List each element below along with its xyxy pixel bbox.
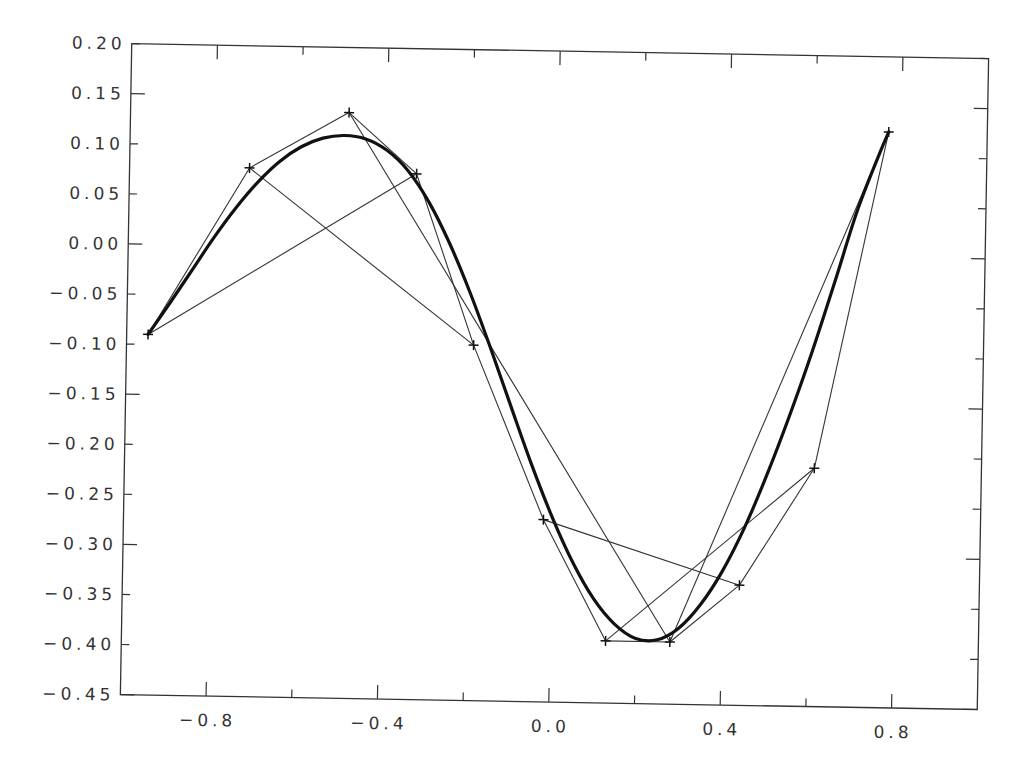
y-tick-label: −0.35	[44, 583, 116, 604]
plus-marker-icon	[469, 340, 479, 350]
y-tick-label: −0.30	[45, 533, 117, 554]
chart-canvas: 0.200.150.100.050.00−0.05−0.10−0.15−0.20…	[0, 0, 1036, 776]
control-line	[148, 169, 417, 339]
y-tick-label: −0.05	[49, 283, 121, 304]
control-line	[250, 111, 350, 170]
x-tick-label: −0.8	[179, 710, 237, 731]
plus-marker-icon	[884, 127, 894, 137]
control-line	[670, 128, 889, 645]
control-line	[348, 113, 418, 174]
control-line	[247, 168, 477, 345]
x-tick-label: −0.4	[350, 713, 408, 734]
fitted-curve	[143, 119, 889, 645]
control-line	[814, 131, 888, 470]
y-tick-label: −0.45	[42, 683, 114, 704]
y-axis: 0.200.150.100.050.00−0.05−0.10−0.15−0.20…	[42, 32, 989, 719]
control-point-markers	[138, 104, 894, 651]
control-line	[739, 467, 814, 586]
plus-marker-icon	[244, 163, 254, 173]
y-tick-label: 0.00	[68, 233, 122, 254]
y-tick-label: −0.15	[47, 383, 119, 404]
y-tick-label: 0.20	[72, 33, 126, 54]
y-tick-label: −0.20	[46, 433, 118, 454]
x-axis: −0.8−0.40.00.40.8	[179, 45, 925, 743]
y-tick-label: 0.05	[69, 183, 123, 204]
control-line	[340, 113, 679, 642]
y-tick-label: −0.10	[48, 333, 120, 354]
y-tick-label: 0.10	[70, 133, 124, 154]
plot-frame	[120, 44, 988, 710]
control-line	[670, 584, 740, 643]
plus-marker-icon	[538, 515, 548, 525]
control-line	[471, 345, 547, 520]
x-tick-label: 0.0	[531, 716, 570, 737]
control-line	[606, 641, 670, 642]
control-line	[606, 465, 815, 645]
x-tick-label: 0.8	[873, 722, 912, 743]
y-tick-label: 0.15	[71, 83, 125, 104]
control-line	[414, 174, 477, 345]
y-tick-label: −0.40	[43, 633, 115, 654]
x-tick-label: 0.4	[702, 719, 741, 740]
control-polygon-lines	[143, 109, 889, 646]
y-tick-label: −0.25	[46, 483, 118, 504]
